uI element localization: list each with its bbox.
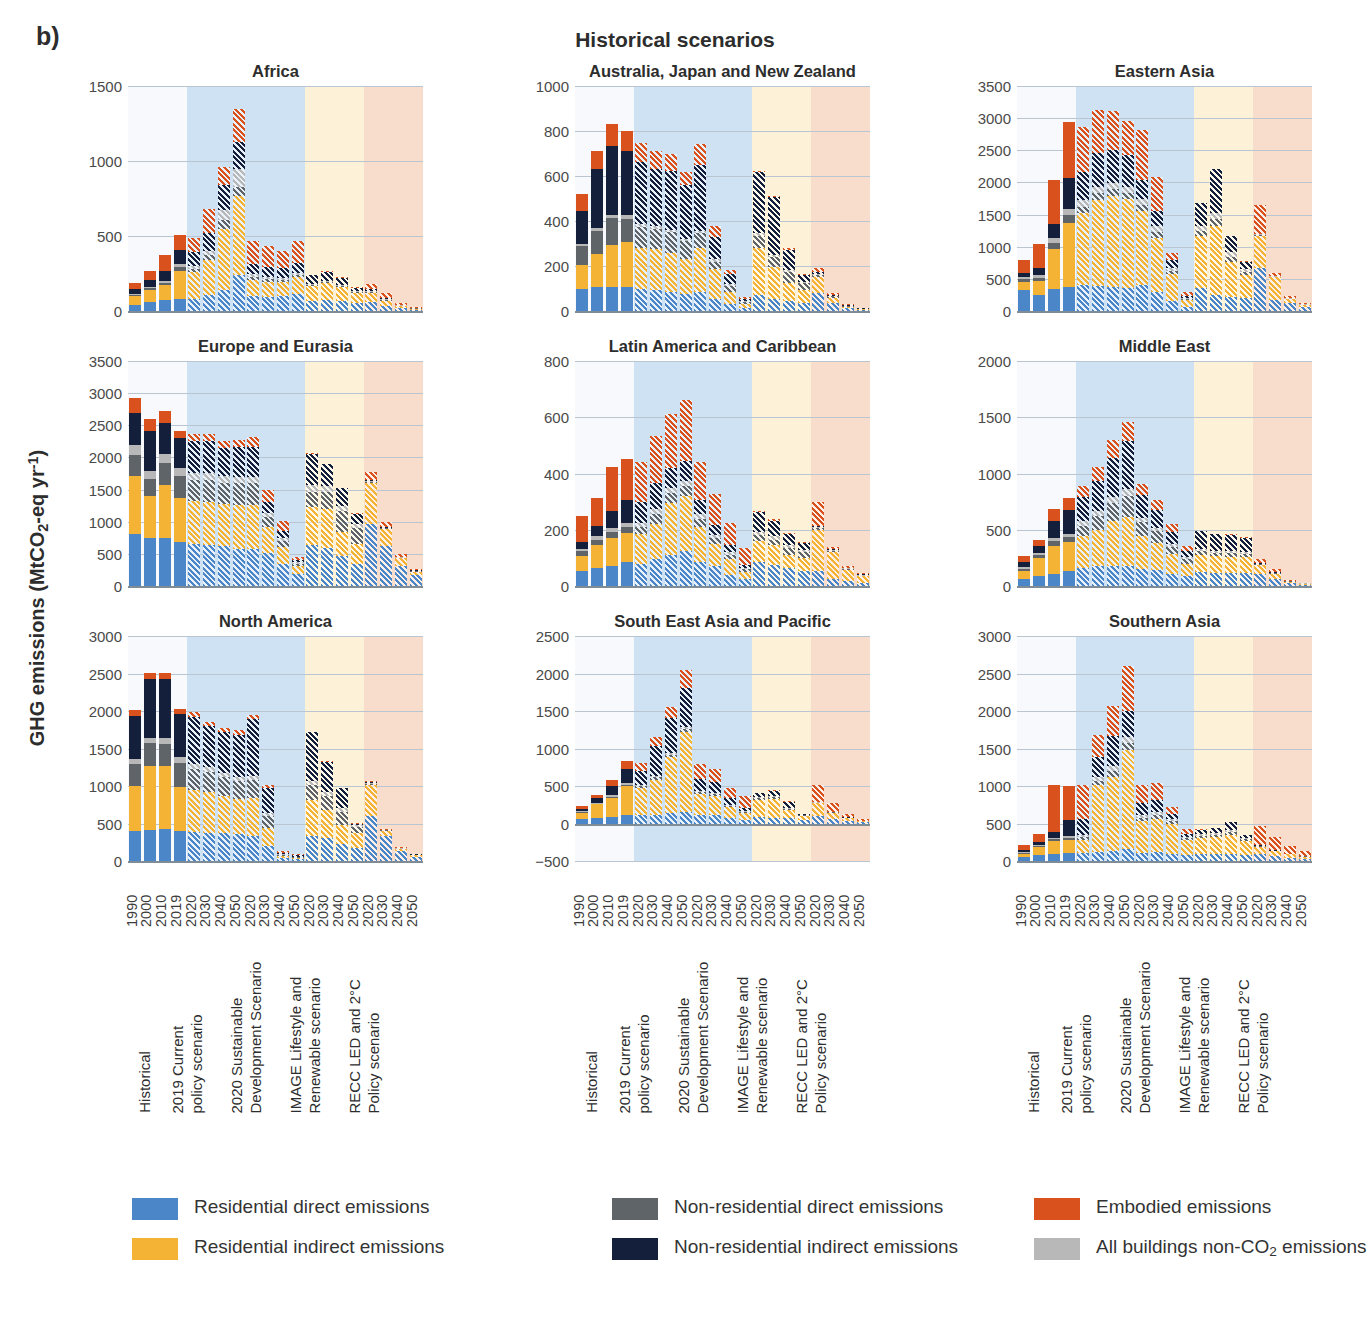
bar-segment: [1077, 526, 1089, 536]
bar-segment: [1254, 234, 1266, 235]
bar-segment: [709, 269, 721, 298]
scenario-label: Historical: [583, 1051, 602, 1113]
bar-segment: [576, 246, 588, 265]
x-axis-tick-year: 2030: [1086, 895, 1102, 927]
bar-segment: [203, 833, 215, 862]
bar-segment: [724, 552, 736, 555]
bar-segment: [768, 267, 780, 299]
stacked-bar: [1151, 177, 1163, 311]
y-axis-tick: 1500: [978, 409, 1011, 426]
bar-segment: [159, 411, 171, 423]
bar-segment: [591, 798, 603, 803]
stacked-bar: [842, 566, 854, 586]
x-axis-tick-year: 2040: [389, 895, 405, 927]
stacked-bar: [650, 151, 662, 311]
bar-segment: [159, 744, 171, 767]
bar-segment: [739, 813, 751, 820]
y-axis-tick: 1000: [89, 778, 122, 795]
y-axis-tick: 2500: [89, 417, 122, 434]
stacked-bar: [827, 803, 839, 824]
bar-segment: [680, 486, 692, 496]
x-axis-tick-year: 2040: [212, 895, 228, 927]
bar-segment: [1151, 510, 1163, 527]
stacked-bar: [1254, 205, 1266, 311]
bar-segment: [1166, 554, 1178, 574]
bar-segment: [380, 293, 392, 298]
bar-segment: [203, 502, 215, 545]
stacked-bar: [812, 502, 824, 586]
bar-segment: [395, 308, 407, 311]
figure-title: Historical scenarios: [0, 28, 1350, 52]
bar-segment: [306, 492, 318, 507]
bar-segment: [174, 757, 186, 763]
bar-segment: [739, 579, 751, 586]
bar-segment: [753, 800, 765, 818]
bar-segment: [621, 242, 633, 287]
bar-segment: [1077, 213, 1089, 285]
bar-segment: [1077, 172, 1089, 200]
bar-segment: [1299, 584, 1311, 585]
bar-segment: [1195, 836, 1207, 838]
bar-segment: [1033, 558, 1045, 576]
bar-segment: [1122, 517, 1134, 565]
bar-segment: [783, 802, 795, 808]
stacked-bar: [1181, 829, 1193, 861]
bar-segment: [1166, 524, 1178, 532]
bar-segment: [724, 270, 736, 275]
x-axis-tick-year: 2050: [851, 895, 867, 927]
bar-segment: [1136, 853, 1148, 861]
bar-segment: [159, 766, 171, 829]
bar-segment: [410, 857, 422, 862]
bar-segment: [1033, 847, 1045, 855]
bar-segment: [753, 797, 765, 798]
stacked-bar: [621, 761, 633, 824]
bar-segment: [174, 714, 186, 757]
bar-segment: [218, 290, 230, 311]
bar-segment: [233, 549, 245, 586]
stacked-bar: [410, 854, 422, 861]
stacked-bar: [1181, 546, 1193, 587]
bar-segment: [218, 504, 230, 546]
y-axis-tick: 2000: [89, 703, 122, 720]
bar-segment: [576, 571, 588, 586]
bar-segment: [1092, 530, 1104, 566]
bar-segment: [1092, 200, 1104, 286]
gridline: [575, 131, 870, 132]
stacked-bar: [321, 464, 333, 586]
bar-segment: [1225, 854, 1237, 861]
bar-segment: [1018, 562, 1030, 567]
bar-segment: [1063, 178, 1075, 209]
bar-segment: [827, 803, 839, 812]
bar-segment: [768, 257, 780, 267]
panel-title: Eastern Asia: [1017, 62, 1312, 81]
bar-segment: [694, 231, 706, 234]
bar-segment: [768, 521, 780, 536]
bar-segment: [1240, 855, 1252, 861]
bar-segment: [1166, 274, 1178, 301]
bar-segment: [1269, 569, 1281, 572]
bar-segment: [262, 513, 274, 517]
bar-segment: [768, 197, 780, 254]
bar-segment: [1269, 277, 1281, 278]
bar-segment: [380, 528, 392, 529]
bar-segment: [262, 490, 274, 502]
stacked-bar: [1063, 122, 1075, 311]
legend-label: Embodied emissions: [1096, 1196, 1271, 1218]
y-axis-tick: 1500: [978, 740, 1011, 757]
bar-segment: [144, 743, 156, 766]
bar-segment: [783, 270, 795, 272]
bar-segment: [188, 473, 200, 480]
bar-segment: [336, 278, 348, 285]
bar-segment: [739, 299, 751, 301]
bar-segment: [277, 541, 289, 547]
bar-segment: [351, 287, 363, 288]
bar-segment: [1107, 440, 1119, 459]
bar-segment: [1018, 579, 1030, 586]
bar-segment: [247, 274, 259, 276]
gridline: [575, 636, 870, 637]
bar-segment: [218, 185, 230, 210]
bar-segment: [1181, 838, 1193, 840]
bar-segment: [321, 548, 333, 586]
bar-segment: [1136, 205, 1148, 211]
bar-segment: [1225, 262, 1237, 297]
